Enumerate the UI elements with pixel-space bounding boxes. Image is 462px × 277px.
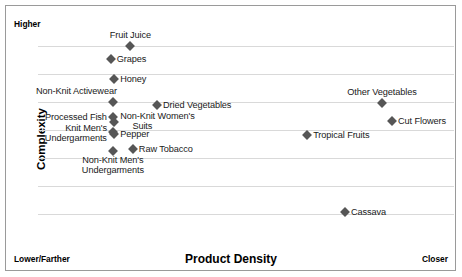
- gridline-0: [38, 46, 454, 47]
- data-point-label: Non-Knit Activewear: [36, 86, 117, 96]
- data-point-label: Non-Knit Men'sUndergarments: [82, 155, 144, 175]
- data-point-label: Fruit Juice: [110, 30, 151, 40]
- gridline-1: [38, 74, 454, 75]
- y-axis-top-endpoint-label: Higher: [14, 19, 41, 29]
- data-point-marker[interactable]: [108, 97, 118, 107]
- gridline-5: [38, 186, 454, 187]
- data-point-label: Tropical Fruits: [313, 130, 369, 140]
- data-point-marker[interactable]: [106, 54, 116, 64]
- data-point-label: Processed Fish: [45, 112, 107, 122]
- gridline-2: [38, 102, 454, 103]
- data-point-marker[interactable]: [387, 116, 397, 126]
- data-point-label: Raw Tobacco: [139, 144, 193, 154]
- data-point-label: Grapes: [117, 54, 147, 64]
- data-point-marker[interactable]: [109, 74, 119, 84]
- x-axis-title: Product Density: [0, 252, 462, 266]
- data-point-label: Honey: [120, 74, 146, 84]
- data-point-label: Cut Flowers: [398, 116, 446, 126]
- data-point-marker[interactable]: [109, 117, 119, 127]
- data-point-marker[interactable]: [125, 41, 135, 51]
- data-point-label: Pepper: [120, 129, 149, 139]
- data-point-label: Other Vegetables: [347, 87, 416, 97]
- data-point-label: Dried Vegetables: [163, 100, 231, 110]
- data-point-marker[interactable]: [128, 144, 138, 154]
- plot-area: Fruit JuiceGrapesHoneyNon-Knit Activewea…: [38, 16, 454, 242]
- data-point-label: Cassava: [351, 207, 386, 217]
- scatter-chart-figure: Higher Lower/Farther Closer Complexity P…: [0, 0, 462, 277]
- data-point-marker[interactable]: [377, 98, 387, 108]
- data-point-marker[interactable]: [302, 130, 312, 140]
- data-point-label: Knit Men'sUndergarments: [45, 123, 107, 143]
- data-point-marker[interactable]: [340, 207, 350, 217]
- gridline-6: [38, 214, 454, 215]
